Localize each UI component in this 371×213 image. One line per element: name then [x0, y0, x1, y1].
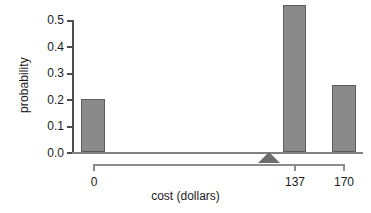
- x-tick-label-170: 170: [334, 176, 354, 188]
- y-tick-label-0.4: 0.4: [32, 41, 64, 53]
- bar-cost-0: [81, 99, 105, 152]
- y-tick-label-0.5: 0.5: [32, 14, 64, 26]
- x-axis-line: [93, 164, 344, 166]
- x-axis-tick-170: [343, 164, 345, 171]
- bar-cost-137: [283, 5, 306, 152]
- balance-point-triangle-icon: [258, 152, 280, 163]
- y-axis-tick-0.1: [67, 126, 73, 128]
- y-tick-label-0.1: 0.1: [32, 120, 64, 132]
- x-axis-tick-137: [294, 164, 296, 171]
- y-axis-tick-0.3: [67, 73, 73, 75]
- y-axis-tick-0.4: [67, 46, 73, 48]
- x-axis-label: cost (dollars): [0, 190, 371, 202]
- y-axis-label: probability: [14, 10, 34, 160]
- y-axis-tick-labels: 0.5 0.4 0.3 0.2 0.1 0.0: [32, 0, 64, 213]
- x-tick-label-137: 137: [285, 176, 305, 188]
- y-axis-spine: [72, 20, 74, 153]
- y-axis-tick-0.2: [67, 99, 73, 101]
- y-axis-tick-0.5: [67, 20, 73, 22]
- zero-baseline: [72, 152, 363, 154]
- probability-bar-chart: probability 0.5 0.4 0.3 0.2 0.1 0.0 0 13…: [0, 0, 371, 213]
- y-tick-label-0.3: 0.3: [32, 67, 64, 79]
- bar-cost-170: [332, 85, 356, 152]
- y-tick-label-0.2: 0.2: [32, 94, 64, 106]
- x-axis-tick-0: [93, 164, 95, 171]
- x-tick-label-0: 0: [91, 176, 98, 188]
- y-tick-label-0.0: 0.0: [32, 147, 64, 159]
